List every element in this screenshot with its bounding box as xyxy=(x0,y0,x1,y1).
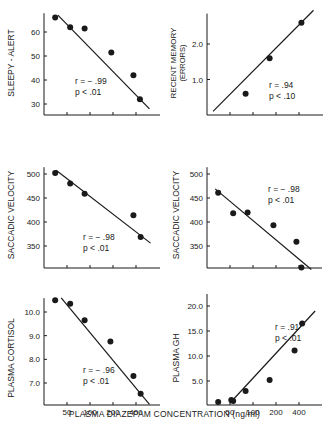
correlation-p: p < .01 xyxy=(275,333,302,343)
data-point xyxy=(215,399,221,405)
y-tick-label: 60 xyxy=(31,28,40,37)
y-axis-label-units: (ERRORS) xyxy=(178,44,187,82)
y-tick-label: 400 xyxy=(190,218,204,227)
y-tick-label: 10.0 xyxy=(24,308,40,317)
panel-bottom-left: 501002004007.08.09.010.0PLASMA CORTISOLr… xyxy=(6,297,160,417)
y-tick-label: 400 xyxy=(27,218,41,227)
regression-line xyxy=(61,298,149,405)
data-point xyxy=(82,317,88,323)
correlation-p: p < .01 xyxy=(83,243,110,253)
data-point xyxy=(130,72,136,78)
y-axis-label: SACCADIC VELOCITY xyxy=(171,171,181,260)
y-tick-label: 500 xyxy=(27,170,41,179)
data-point xyxy=(137,96,143,102)
data-point xyxy=(245,209,251,215)
data-point xyxy=(293,239,299,245)
shared-x-axis-label: PLASMA DIAZEPAM CONCENTRATION (ng/ml) xyxy=(0,409,329,419)
data-point xyxy=(267,377,273,383)
data-point xyxy=(67,301,73,307)
y-tick-label: 15.0 xyxy=(187,327,203,336)
y-tick-label: 10.0 xyxy=(187,352,203,361)
data-point xyxy=(298,20,304,26)
data-point xyxy=(243,91,249,97)
correlation-r: r = − .98 xyxy=(83,232,115,242)
data-point xyxy=(230,210,236,216)
data-point xyxy=(230,398,236,404)
data-point xyxy=(52,297,58,303)
data-point xyxy=(138,234,144,240)
scatter-panels: 30405060SLEEPY - ALERTr = − .99p < .011.… xyxy=(0,0,329,437)
regression-line xyxy=(213,10,313,111)
y-tick-label: 2.0 xyxy=(192,40,204,49)
data-point xyxy=(130,212,136,218)
regression-line xyxy=(215,189,311,270)
y-tick-label: 350 xyxy=(190,242,204,251)
y-tick-label: 20.0 xyxy=(187,302,203,311)
data-point xyxy=(138,391,144,397)
y-axis-label: RECENT MEMORY xyxy=(169,27,178,98)
data-point xyxy=(267,55,273,61)
panel-top-left: 30405060SLEEPY - ALERTr = − .99p < .01 xyxy=(6,13,160,115)
y-axis-label: SACCADIC VELOCITY xyxy=(6,171,16,260)
correlation-r: r = − .98 xyxy=(268,184,300,194)
figure: 30405060SLEEPY - ALERTr = − .99p < .011.… xyxy=(0,0,329,437)
y-axis-label: PLASMA GH xyxy=(171,333,181,382)
panel-middle-right: 350400450500SACCADIC VELOCITYr = − .98p … xyxy=(171,167,322,270)
y-tick-label: 7.0 xyxy=(29,379,41,388)
panel-top-right: 1.02.0RECENT MEMORY(ERRORS)r = .94p < .1… xyxy=(169,10,323,115)
data-point xyxy=(292,348,298,354)
correlation-r: r = .94 xyxy=(269,80,294,90)
correlation-p: p < .10 xyxy=(269,91,296,101)
data-point xyxy=(107,339,113,345)
data-point xyxy=(108,49,114,55)
data-point xyxy=(82,191,88,197)
correlation-r: r = .91 xyxy=(275,322,300,332)
y-tick-label: 9.0 xyxy=(29,332,41,341)
data-point xyxy=(299,321,305,327)
y-axis-label: SLEEPY - ALERT xyxy=(6,29,16,96)
y-tick-label: 30 xyxy=(31,100,40,109)
y-tick-label: 5.0 xyxy=(192,377,204,386)
data-point xyxy=(243,388,249,394)
correlation-p: p < .01 xyxy=(268,195,295,205)
correlation-r: r = − .96 xyxy=(83,365,115,375)
y-tick-label: 450 xyxy=(27,194,41,203)
y-tick-label: 350 xyxy=(27,242,41,251)
data-point xyxy=(130,373,136,379)
data-point xyxy=(67,181,73,187)
y-axis-label: PLASMA CORTISOL xyxy=(6,318,16,398)
data-point xyxy=(67,24,73,30)
correlation-p: p < .01 xyxy=(83,376,110,386)
y-tick-label: 8.0 xyxy=(29,355,41,364)
panel-bottom-right: 501002004005.010.015.020.0PLASMA GHr = .… xyxy=(171,294,322,417)
y-tick-label: 50 xyxy=(31,52,40,61)
y-tick-label: 40 xyxy=(31,76,40,85)
data-point xyxy=(52,170,58,176)
correlation-p: p < .01 xyxy=(75,87,102,97)
y-tick-label: 450 xyxy=(190,194,204,203)
data-point xyxy=(82,25,88,31)
y-tick-label: 1.0 xyxy=(192,76,204,85)
correlation-r: r = − .99 xyxy=(75,76,107,86)
data-point xyxy=(298,265,304,271)
panel-middle-left: 350400450500SACCADIC VELOCITYr = − .98p … xyxy=(6,167,160,268)
data-point xyxy=(270,222,276,228)
data-point xyxy=(52,15,58,21)
data-point xyxy=(215,190,221,196)
y-tick-label: 500 xyxy=(190,170,204,179)
